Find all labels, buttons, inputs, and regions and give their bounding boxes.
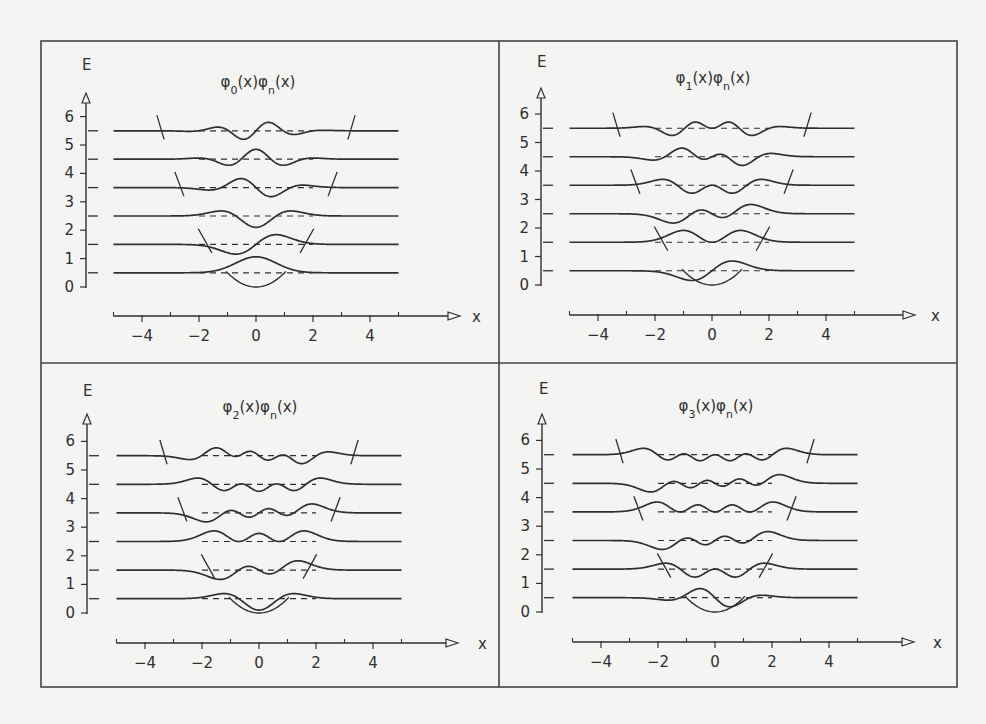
turning-point-mark — [178, 497, 187, 521]
turning-point-mark — [616, 439, 623, 463]
turning-point-mark — [157, 115, 164, 139]
x-tick-label: 2 — [764, 326, 774, 344]
x-tick-label: 2 — [308, 327, 318, 345]
y-tick-label: 4 — [519, 162, 529, 180]
x-tick-label: −4 — [590, 653, 612, 671]
y-tick-label: 5 — [64, 136, 74, 154]
y-tick-label: 4 — [64, 164, 74, 182]
x-axis-arrow-icon — [448, 312, 460, 320]
y-axis-label: E — [539, 380, 548, 398]
x-tick-label: 0 — [251, 327, 261, 345]
y-tick-label: 0 — [520, 603, 530, 621]
product-curve — [573, 563, 858, 577]
product-curve — [570, 230, 855, 242]
x-tick-label: −2 — [644, 326, 666, 344]
y-tick-label: 4 — [520, 489, 530, 507]
turning-point-mark — [160, 440, 167, 464]
turning-point-mark — [613, 113, 620, 137]
x-tick-label: 4 — [824, 653, 834, 671]
turning-point-mark — [328, 172, 337, 196]
y-axis-label: E — [82, 56, 91, 74]
product-curve — [573, 475, 858, 492]
y-tick-label: 1 — [65, 575, 75, 593]
x-tick-label: −4 — [587, 326, 609, 344]
y-tick-label: 3 — [64, 193, 74, 211]
product-curve — [117, 504, 402, 522]
product-curve — [570, 148, 855, 165]
x-axis-label: x — [472, 308, 481, 326]
turning-point-mark — [759, 553, 773, 577]
product-curve — [114, 235, 399, 254]
panel-phi2-products: φ2(x)φn(x) E x 0123456−4−2024 — [65, 382, 487, 672]
turning-point-mark — [351, 440, 358, 464]
x-axis-label: x — [478, 635, 487, 653]
turning-point-mark — [631, 170, 640, 194]
product-curve — [573, 448, 858, 460]
turning-point-mark — [787, 496, 796, 520]
turning-point-mark — [300, 229, 314, 253]
panel-phi1-products: φ1(x)φn(x) E x 0123456−4−2024 — [519, 53, 940, 344]
turning-point-mark — [804, 113, 811, 137]
y-tick-label: 2 — [519, 219, 529, 237]
turning-point-mark — [634, 496, 643, 520]
product-curve — [114, 149, 399, 165]
y-tick-label: 3 — [65, 518, 75, 536]
product-curve — [114, 211, 399, 227]
x-tick-label: −4 — [134, 654, 156, 672]
y-tick-label: 3 — [520, 517, 530, 535]
turning-point-mark — [303, 554, 317, 578]
turning-point-mark — [198, 229, 212, 253]
y-tick-label: 6 — [519, 105, 529, 123]
x-tick-label: 0 — [254, 654, 264, 672]
x-tick-label: 0 — [710, 653, 720, 671]
plot-area: 0123456−4−2024 — [519, 88, 915, 344]
y-axis-arrow-icon — [82, 93, 90, 103]
y-tick-label: 1 — [519, 248, 529, 266]
turning-point-mark — [657, 553, 671, 577]
product-curve — [573, 532, 858, 550]
turning-point-mark — [807, 439, 814, 463]
y-tick-label: 2 — [64, 221, 74, 239]
product-curve — [117, 561, 402, 580]
product-curve — [573, 589, 858, 607]
x-tick-label: 2 — [767, 653, 777, 671]
x-tick-label: −4 — [131, 327, 153, 345]
plot-area: 0123456−4−2024 — [64, 93, 460, 345]
x-tick-label: −2 — [188, 327, 210, 345]
x-tick-label: 4 — [368, 654, 378, 672]
figure-canvas: φ0(x)φn(x) E x 0123456−4−2024 φ1(x)φn(x)… — [0, 0, 986, 724]
turning-point-mark — [784, 170, 793, 194]
y-tick-label: 6 — [520, 431, 530, 449]
x-tick-label: 4 — [365, 327, 375, 345]
y-tick-label: 2 — [65, 547, 75, 565]
product-curve — [114, 257, 399, 273]
y-tick-label: 3 — [519, 191, 529, 209]
product-curve — [570, 261, 855, 281]
y-tick-label: 1 — [520, 574, 530, 592]
y-axis-arrow-icon — [83, 414, 91, 424]
turning-point-mark — [348, 115, 355, 139]
x-axis-arrow-icon — [902, 638, 914, 646]
y-tick-label: 0 — [65, 604, 75, 622]
panel-phi0-products: φ0(x)φn(x) E x 0123456−4−2024 — [64, 56, 481, 345]
plot-area: 0123456−4−2024 — [65, 414, 458, 672]
product-curve — [573, 502, 858, 512]
y-tick-label: 6 — [65, 432, 75, 450]
y-tick-label: 0 — [64, 278, 74, 296]
y-tick-label: 5 — [519, 134, 529, 152]
y-tick-label: 1 — [64, 250, 74, 268]
y-axis-arrow-icon — [537, 88, 545, 98]
y-tick-label: 6 — [64, 108, 74, 126]
x-tick-label: −2 — [191, 654, 213, 672]
figure-frame — [41, 41, 957, 687]
potential-arc — [226, 271, 286, 287]
y-tick-label: 0 — [519, 276, 529, 294]
panel-title: φ1(x)φn(x) — [676, 69, 751, 93]
y-tick-label: 5 — [65, 461, 75, 479]
product-curve — [117, 531, 402, 542]
x-axis-label: x — [931, 307, 940, 325]
x-tick-label: 0 — [707, 326, 717, 344]
product-curve — [114, 122, 399, 139]
turning-point-mark — [175, 172, 184, 196]
y-tick-label: 2 — [520, 546, 530, 564]
